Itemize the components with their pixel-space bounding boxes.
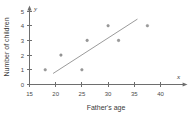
- y-tick-label-3: 3: [21, 38, 25, 44]
- y-axis-title: Number of children: [3, 17, 10, 76]
- data-point: [117, 39, 120, 42]
- x-tick-label-5: 40: [157, 91, 164, 97]
- x-tick-label-1: 20: [52, 91, 59, 97]
- y-tick-label-0: 0: [21, 82, 25, 88]
- x-tick-label-4: 35: [131, 91, 138, 97]
- x-tick-label-0: 15: [26, 91, 33, 97]
- y-tick-label-2: 2: [21, 53, 25, 59]
- x-tick-labels: 15 20 25 30 35 40: [26, 91, 164, 97]
- data-point: [107, 24, 110, 27]
- y-tick-label-4: 4: [21, 23, 25, 29]
- plot-canvas: y x 15 20 25 30 35 40: [0, 0, 190, 117]
- y-axis: y: [27, 5, 38, 85]
- trend-line: [53, 19, 137, 73]
- x-axis-symbol: x: [176, 73, 181, 81]
- y-tick-label-1: 1: [21, 67, 25, 73]
- data-point: [81, 69, 84, 72]
- y-axis-symbol: y: [33, 5, 38, 13]
- x-tick-label-3: 30: [105, 91, 112, 97]
- x-axis-arrow-icon: [183, 82, 188, 86]
- x-tick-label-2: 25: [79, 91, 86, 97]
- data-point: [86, 39, 89, 42]
- x-axis-title: Father's age: [87, 104, 126, 112]
- data-point: [60, 54, 63, 57]
- scatter-plot-figure: y x 15 20 25 30 35 40: [0, 0, 190, 117]
- y-tick-label-5: 5: [21, 9, 25, 15]
- data-point: [146, 24, 149, 27]
- y-tick-labels: 0 1 2 3 4 5: [21, 9, 25, 89]
- y-axis-arrow-icon: [27, 6, 31, 11]
- data-points-group: [44, 24, 149, 71]
- data-point: [44, 69, 47, 72]
